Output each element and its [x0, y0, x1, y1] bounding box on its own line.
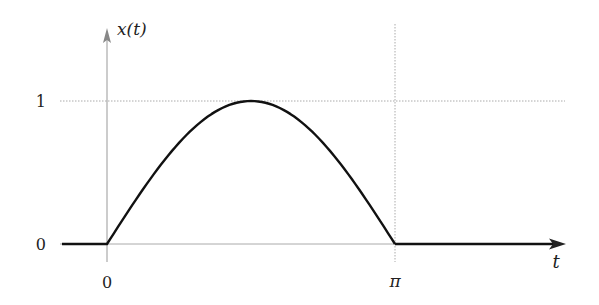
y-axis-label: x(t)	[117, 19, 147, 39]
signal-curve	[62, 101, 395, 244]
x-tick-label-pi: π	[388, 271, 401, 291]
signal-plot: x(t) 1 0 0 π t	[0, 0, 599, 305]
y-tick-label-1: 1	[36, 92, 46, 111]
y-tick-label-0: 0	[36, 235, 46, 254]
x-tick-label-0: 0	[102, 273, 112, 292]
x-axis-label: t	[552, 251, 560, 272]
